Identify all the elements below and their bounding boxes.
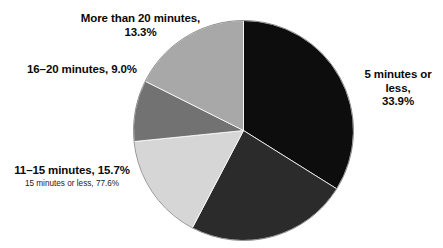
pie-slice-group bbox=[134, 21, 354, 241]
pie-label-11-15-minutes-block: 11–15 minutes, 15.7% 15 minutes or less,… bbox=[2, 150, 142, 203]
pie-annotation-15-minutes-or-less: 15 minutes or less, 77.6% bbox=[2, 178, 142, 189]
pie-chart-figure: More than 20 minutes, 13.3% 16–20 minute… bbox=[0, 0, 443, 248]
pie-label-16-20-minutes: 16–20 minutes, 9.0% bbox=[8, 63, 156, 77]
pie-label-11-15-minutes: 11–15 minutes, 15.7% bbox=[14, 164, 130, 176]
pie-label-more-than-20-minutes: More than 20 minutes, 13.3% bbox=[58, 12, 223, 39]
pie-label-5-minutes-or-less: 5 minutes or less, 33.9% bbox=[352, 68, 443, 109]
